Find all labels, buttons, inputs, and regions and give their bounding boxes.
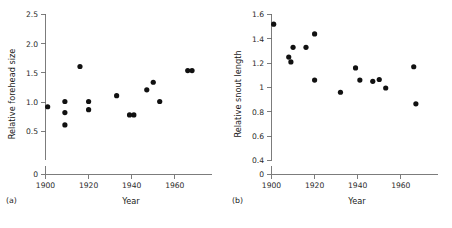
data-point [189, 68, 194, 73]
y-tick-label: 0 [259, 170, 264, 179]
panel-b-x-ticks [272, 175, 401, 180]
x-tick-label: 1960 [391, 181, 410, 190]
data-point [370, 79, 375, 84]
data-point [62, 110, 67, 115]
y-tick-label: 1.2 [252, 59, 264, 68]
y-tick-label: 0 [33, 170, 38, 179]
y-tick-label: 0.5 [26, 127, 38, 136]
panel-b-axes [272, 14, 439, 175]
data-point [286, 54, 291, 59]
x-tick-label: 1900 [36, 181, 55, 190]
x-tick-label: 1960 [165, 181, 184, 190]
data-point [411, 64, 416, 69]
data-point [357, 78, 362, 83]
panel-a-axes [46, 14, 213, 175]
y-tick-label: 0.8 [252, 108, 264, 117]
panel-a: 2.5 2.0 1.5 1.0 0.5 0 1900 1920 1940 196… [0, 0, 226, 228]
data-point [62, 99, 67, 104]
data-point [312, 31, 317, 36]
data-point [144, 87, 149, 92]
y-tick-label: 1.0 [26, 98, 38, 107]
panel-a-y-ticks [41, 15, 46, 175]
data-point [312, 78, 317, 83]
data-point [157, 99, 162, 104]
data-point [62, 122, 67, 127]
y-tick-label: 1.6 [252, 10, 264, 19]
data-point [271, 22, 276, 27]
x-axis-title: Year [121, 196, 140, 206]
y-tick-label: 0.4 [252, 156, 264, 165]
data-point [413, 101, 418, 106]
x-tick-label: 1900 [262, 181, 281, 190]
panel-b-y-ticklabels: 1.6 1.4 1.2 1 0.8 0.6 0.4 0 [252, 10, 264, 179]
y-tick-label: 2.0 [26, 40, 38, 49]
panel-b-y-ticks [267, 15, 272, 175]
x-tick-label: 1940 [122, 181, 141, 190]
data-point [303, 45, 308, 50]
x-tick-label: 1920 [305, 181, 324, 190]
x-tick-label: 1940 [348, 181, 367, 190]
panel-b-plot: 1.6 1.4 1.2 1 0.8 0.6 0.4 0 1900 1920 19… [226, 0, 452, 228]
data-point [338, 90, 343, 95]
y-tick-label: 1.4 [252, 35, 264, 44]
panel-b-x-ticklabels: 1900 1920 1940 1960 [262, 181, 411, 190]
y-tick-label: 0.6 [252, 132, 264, 141]
panel-caption: (b) [232, 196, 243, 205]
y-axis-title: Relative forehead size [7, 49, 17, 140]
panel-a-x-ticklabels: 1900 1920 1940 1960 [36, 181, 185, 190]
data-point [114, 93, 119, 98]
data-point [45, 104, 50, 109]
panel-a-data-points [45, 64, 195, 128]
y-tick-label: 1 [259, 83, 264, 92]
panel-a-plot: 2.5 2.0 1.5 1.0 0.5 0 1900 1920 1940 196… [0, 0, 226, 228]
data-point [377, 77, 382, 82]
scatter-figure: 2.5 2.0 1.5 1.0 0.5 0 1900 1920 1940 196… [0, 0, 452, 228]
y-tick-label: 1.5 [26, 69, 38, 78]
data-point [288, 59, 293, 64]
data-point [290, 45, 295, 50]
x-tick-label: 1920 [79, 181, 98, 190]
panel-a-y-ticklabels: 2.5 2.0 1.5 1.0 0.5 0 [26, 10, 38, 179]
panel-b-data-points [271, 22, 418, 107]
data-point [77, 64, 82, 69]
y-tick-label: 2.5 [26, 10, 38, 19]
data-point [383, 85, 388, 90]
panel-a-x-ticks [46, 175, 175, 180]
panel-caption: (a) [6, 196, 17, 205]
panel-b: 1.6 1.4 1.2 1 0.8 0.6 0.4 0 1900 1920 19… [226, 0, 452, 228]
x-axis-title: Year [347, 196, 366, 206]
y-axis-title: Relative snout length [233, 50, 243, 137]
data-point [86, 99, 91, 104]
data-point [86, 107, 91, 112]
data-point [353, 65, 358, 70]
data-point [151, 80, 156, 85]
data-point [131, 112, 136, 117]
